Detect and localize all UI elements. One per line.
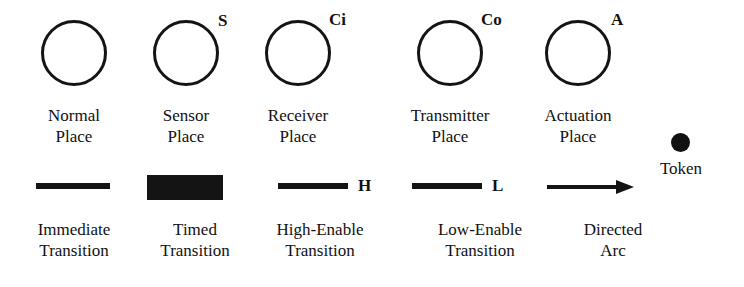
caption-line-2: Transition — [419, 240, 541, 261]
place-transmitter-mark: Co — [481, 11, 502, 28]
transition-high-enable: H — [278, 183, 348, 189]
transition-low-enable: L — [412, 183, 482, 189]
transition-immediate — [36, 183, 110, 189]
transition-high-enable-caption: High-Enable Transition — [259, 219, 381, 261]
circle-icon — [153, 20, 219, 86]
caption-line-1: Token — [630, 158, 732, 179]
thick-bar-icon — [147, 175, 223, 200]
thin-bar-icon — [278, 183, 348, 189]
caption-line-2: Transition — [134, 240, 256, 261]
arrow-icon — [546, 178, 636, 196]
caption-line-1: Receiver — [238, 105, 358, 126]
place-actuation-caption: Actuation Place — [518, 105, 638, 147]
place-transmitter: Co — [417, 20, 483, 86]
circle-icon — [545, 20, 611, 86]
token-marker — [671, 133, 690, 152]
place-normal-caption: Normal Place — [14, 105, 134, 147]
place-sensor-mark: S — [218, 12, 227, 29]
caption-line-2: Transition — [13, 240, 135, 261]
place-sensor: S — [153, 20, 219, 86]
place-normal — [41, 20, 107, 86]
transition-timed-caption: Timed Transition — [134, 219, 256, 261]
place-receiver-caption: Receiver Place — [238, 105, 358, 147]
caption-line-1: Low-Enable — [419, 219, 541, 240]
place-transmitter-caption: Transmitter Place — [390, 105, 510, 147]
circle-icon — [265, 20, 331, 86]
transition-low-enable-caption: Low-Enable Transition — [419, 219, 541, 261]
caption-line-1: Normal — [14, 105, 134, 126]
circle-icon — [41, 20, 107, 86]
place-receiver-mark: Ci — [329, 11, 346, 28]
caption-line-1: Directed — [552, 219, 674, 240]
place-actuation-mark: A — [611, 11, 623, 28]
transition-low-enable-mark: L — [492, 177, 503, 194]
thin-bar-icon — [36, 183, 110, 189]
caption-line-1: Actuation — [518, 105, 638, 126]
circle-icon — [417, 20, 483, 86]
caption-line-2: Transition — [259, 240, 381, 261]
caption-line-2: Place — [14, 126, 134, 147]
transition-immediate-caption: Immediate Transition — [13, 219, 135, 261]
directed-arc-caption: Directed Arc — [552, 219, 674, 261]
caption-line-1: Transmitter — [390, 105, 510, 126]
transition-timed — [147, 175, 223, 200]
token-dot-icon — [671, 133, 690, 152]
caption-line-2: Place — [126, 126, 246, 147]
thin-bar-icon — [412, 183, 482, 189]
token-caption: Token — [630, 158, 732, 179]
directed-arc — [546, 178, 636, 196]
caption-line-2: Place — [518, 126, 638, 147]
caption-line-2: Place — [390, 126, 510, 147]
caption-line-1: Sensor — [126, 105, 246, 126]
caption-line-2: Arc — [552, 240, 674, 261]
place-sensor-caption: Sensor Place — [126, 105, 246, 147]
place-receiver: Ci — [265, 20, 331, 86]
caption-line-1: Immediate — [13, 219, 135, 240]
place-actuation: A — [545, 20, 611, 86]
caption-line-1: High-Enable — [259, 219, 381, 240]
caption-line-2: Place — [238, 126, 358, 147]
petri-net-legend: Normal Place S Sensor Place Ci Receiver … — [0, 0, 744, 287]
transition-high-enable-mark: H — [358, 177, 371, 194]
caption-line-1: Timed — [134, 219, 256, 240]
